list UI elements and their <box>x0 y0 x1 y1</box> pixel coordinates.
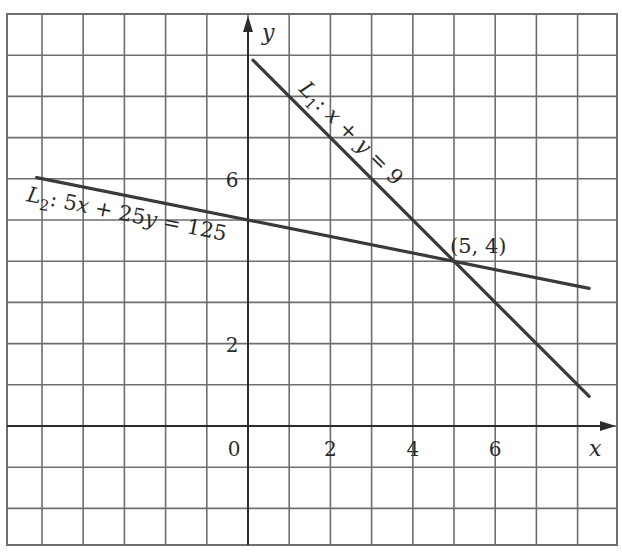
tick-labels: 024626 <box>226 168 502 461</box>
x-tick-label: 4 <box>406 437 419 461</box>
x-tick-label: 2 <box>324 437 337 461</box>
line-l2 <box>37 178 589 289</box>
intersection-label: (5, 4) <box>450 234 506 258</box>
graph-figure: x y 024626 L1: x + y = 9L2: 5x + 25y = 1… <box>0 0 622 559</box>
line-l1-label: L1: x + y = 9 <box>290 76 408 194</box>
plot-lines: L1: x + y = 9L2: 5x + 25y = 125 <box>23 60 589 396</box>
y-tick-label: 6 <box>226 168 239 192</box>
x-tick-label: 0 <box>228 437 241 461</box>
y-axis-label: y <box>261 20 275 45</box>
line-l1 <box>253 60 589 396</box>
y-tick-label: 2 <box>226 333 239 357</box>
line-l2-label: L2: 5x + 25y = 125 <box>23 182 229 250</box>
annotations: (5, 4) <box>450 234 506 258</box>
x-axis-arrow-icon <box>600 421 616 431</box>
y-axis-arrow-icon <box>243 16 253 32</box>
x-axis-label: x <box>589 436 602 461</box>
x-tick-label: 6 <box>489 437 502 461</box>
